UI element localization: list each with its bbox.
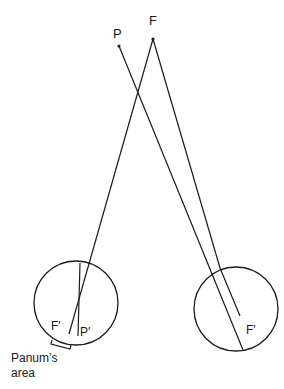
- diagram-canvas: [0, 0, 284, 389]
- ray-P-right-eye: [119, 46, 243, 350]
- ray-F-right-eye-inner: [220, 268, 240, 316]
- panum-area-label-line1: Panum’s: [11, 352, 57, 364]
- left-eye-circle: [34, 261, 118, 345]
- label-right-F-prime: F′: [246, 324, 256, 336]
- panum-area-label-line2: area: [11, 367, 35, 379]
- point-P-dot: [117, 44, 120, 47]
- label-P: P: [113, 28, 122, 40]
- point-F-dot: [151, 37, 154, 40]
- label-left-P-prime: P′: [80, 326, 90, 338]
- label-left-F-prime: F′: [51, 320, 61, 332]
- label-F: F: [149, 15, 157, 27]
- ray-P-to-left-nodal: [80, 46, 119, 263]
- ray-F-left-eye: [69, 39, 153, 334]
- right-eye-circle: [194, 267, 278, 351]
